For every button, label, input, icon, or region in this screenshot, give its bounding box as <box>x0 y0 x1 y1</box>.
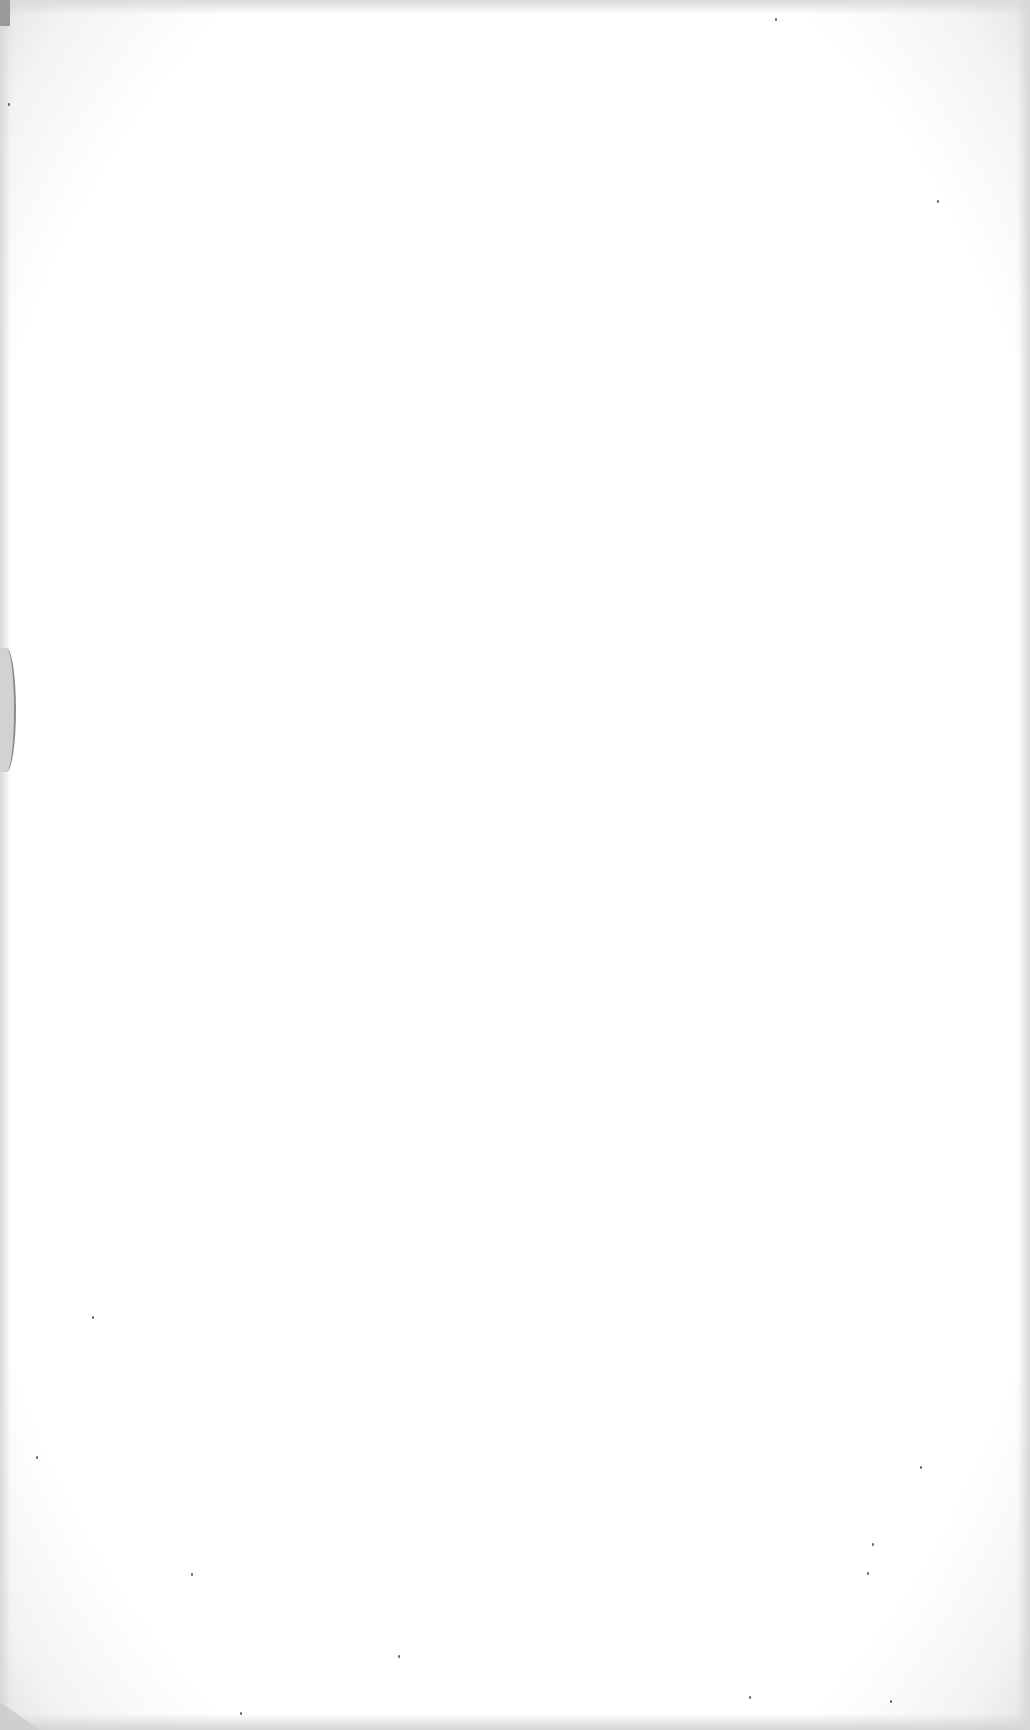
binding-notch <box>0 648 16 772</box>
folded-corner <box>0 1702 40 1730</box>
page-edge-shadow-top <box>0 0 1030 14</box>
scan-speck <box>749 1696 751 1699</box>
scan-corner-mark <box>0 0 10 26</box>
scan-speck <box>775 18 777 21</box>
scan-speck <box>8 103 10 106</box>
scan-speck <box>867 1572 869 1575</box>
scan-speck <box>920 1466 922 1469</box>
scan-speck <box>240 1712 242 1715</box>
scan-speck <box>191 1573 193 1576</box>
scan-speck <box>890 1700 892 1703</box>
scan-speck <box>937 200 939 203</box>
page-edge-shadow-left <box>0 0 10 1730</box>
blank-scanned-page <box>0 0 1030 1730</box>
scan-speck <box>36 1456 38 1459</box>
page-edge-shadow-right <box>1018 0 1030 1730</box>
page-edge-shadow-bottom <box>0 1714 1030 1730</box>
scan-speck <box>872 1543 874 1546</box>
scan-speck <box>92 1316 94 1319</box>
scan-speck <box>398 1655 400 1658</box>
